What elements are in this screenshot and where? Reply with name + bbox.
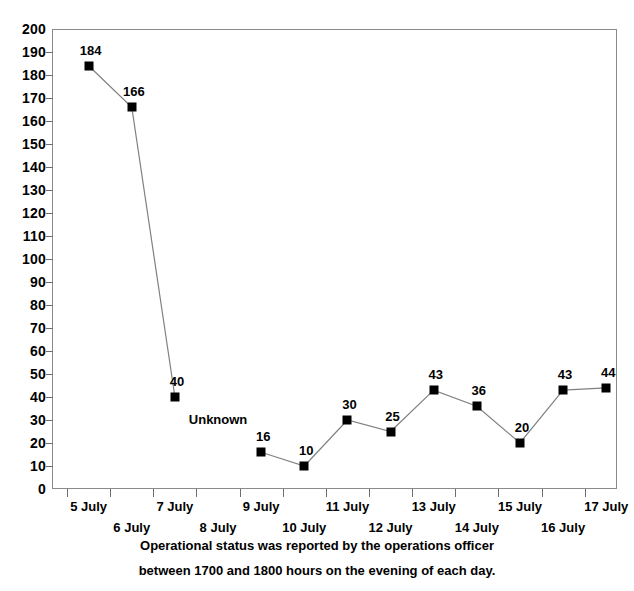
- y-tick-label-60: 60: [0, 344, 46, 358]
- y-tick-label-130: 130: [0, 183, 46, 197]
- x-tick-label-15-july: 15 July: [498, 500, 542, 514]
- y-tick-label-150: 150: [0, 137, 46, 151]
- y-tick-label-180: 180: [0, 68, 46, 82]
- data-point-marker: [429, 386, 438, 395]
- x-tick-label-16-july: 16 July: [541, 521, 585, 535]
- data-point-label: 16: [256, 430, 270, 443]
- x-tick-label-9-july: 9 July: [243, 500, 280, 514]
- missing-data-label: Unknown: [189, 413, 248, 426]
- data-point-label: 43: [558, 368, 572, 381]
- y-tick-label-70: 70: [0, 321, 46, 335]
- data-point-marker: [515, 439, 524, 448]
- data-point-marker: [386, 427, 395, 436]
- x-tick-label-12-july: 12 July: [369, 521, 413, 535]
- y-tick-label-110: 110: [0, 229, 46, 243]
- data-point-label: 184: [80, 44, 102, 57]
- y-tick-label-140: 140: [0, 160, 46, 174]
- data-point-label: 30: [342, 398, 356, 411]
- x-tick-mark: [455, 489, 456, 497]
- y-axis: 2001901801701601501401301201101009080706…: [0, 0, 46, 591]
- data-point-label: 20: [515, 421, 529, 434]
- caption-line-1: Operational status was reported by the o…: [0, 538, 634, 553]
- y-tick-label-100: 100: [0, 252, 46, 266]
- x-tick-label-5-july: 5 July: [70, 500, 107, 514]
- data-point-marker: [559, 386, 568, 395]
- data-point-marker: [472, 402, 481, 411]
- y-tick-label-10: 10: [0, 459, 46, 473]
- y-tick-label-20: 20: [0, 436, 46, 450]
- data-point-label: 44: [601, 366, 615, 379]
- x-tick-label-6-july: 6 July: [113, 521, 150, 535]
- y-tick-label-120: 120: [0, 206, 46, 220]
- data-point-marker: [84, 61, 93, 70]
- y-tick-label-160: 160: [0, 114, 46, 128]
- series-segment: [89, 66, 175, 397]
- x-tick-mark: [67, 489, 68, 497]
- y-tick-label-40: 40: [0, 390, 46, 404]
- data-point-label: 25: [385, 410, 399, 423]
- y-tick-label-170: 170: [0, 91, 46, 105]
- x-tick-label-13-july: 13 July: [412, 500, 456, 514]
- x-tick-label-8-july: 8 July: [200, 521, 237, 535]
- x-tick-label-14-july: 14 July: [455, 521, 499, 535]
- x-tick-label-10-july: 10 July: [282, 521, 326, 535]
- y-tick-label-50: 50: [0, 367, 46, 381]
- x-tick-label-17-july: 17 July: [584, 500, 628, 514]
- data-point-marker: [300, 462, 309, 471]
- data-point-marker: [602, 383, 611, 392]
- x-tick-mark: [369, 489, 370, 497]
- data-point-marker: [170, 393, 179, 402]
- y-tick-label-80: 80: [0, 298, 46, 312]
- line-chart: 2001901801701601501401301201101009080706…: [0, 0, 634, 591]
- x-tick-mark: [153, 489, 154, 497]
- caption-line-2: between 1700 and 1800 hours on the eveni…: [0, 563, 634, 578]
- data-point-label: 36: [472, 384, 486, 397]
- data-point-label: 166: [123, 85, 145, 98]
- data-point-marker: [257, 448, 266, 457]
- x-tick-label-11-july: 11 July: [326, 500, 369, 514]
- data-point-label: 40: [170, 375, 184, 388]
- x-tick-mark: [326, 489, 327, 497]
- y-tick-label-30: 30: [0, 413, 46, 427]
- data-point-marker: [127, 103, 136, 112]
- chart-title: [0, 0, 634, 1]
- x-tick-mark: [585, 489, 586, 497]
- x-tick-mark: [240, 489, 241, 497]
- x-tick-mark: [110, 489, 111, 497]
- x-tick-label-7-july: 7 July: [156, 500, 193, 514]
- x-tick-mark: [283, 489, 284, 497]
- x-tick-mark: [196, 489, 197, 497]
- y-tick-label-90: 90: [0, 275, 46, 289]
- data-point-label: 10: [299, 444, 313, 457]
- y-tick-label-190: 190: [0, 45, 46, 59]
- data-point-label: 43: [428, 368, 442, 381]
- x-tick-mark: [542, 489, 543, 497]
- data-point-marker: [343, 416, 352, 425]
- y-tick-label-0: 0: [0, 482, 46, 496]
- x-tick-mark: [412, 489, 413, 497]
- x-tick-mark: [498, 489, 499, 497]
- y-tick-label-200: 200: [0, 22, 46, 36]
